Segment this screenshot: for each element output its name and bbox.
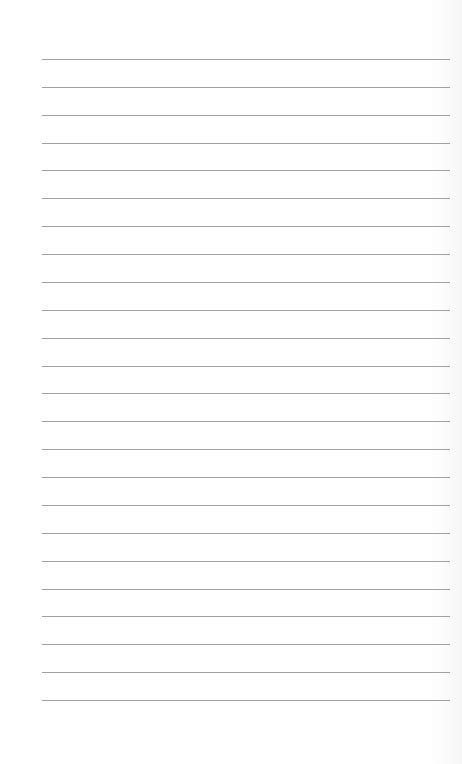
ruled-line bbox=[42, 310, 450, 311]
ruled-line bbox=[42, 366, 450, 367]
ruled-line bbox=[42, 282, 450, 283]
ruled-line bbox=[42, 87, 450, 88]
ruled-line bbox=[42, 59, 450, 60]
ruled-line bbox=[42, 449, 450, 450]
ruled-line bbox=[42, 477, 450, 478]
ruled-line bbox=[42, 393, 450, 394]
ruled-line bbox=[42, 143, 450, 144]
ruled-line bbox=[42, 505, 450, 506]
ruled-line bbox=[42, 421, 450, 422]
ruled-line bbox=[42, 616, 450, 617]
ruled-line bbox=[42, 115, 450, 116]
ruled-line bbox=[42, 198, 450, 199]
ruled-line bbox=[42, 226, 450, 227]
ruled-line bbox=[42, 170, 450, 171]
ruled-line bbox=[42, 700, 450, 701]
lined-paper-page bbox=[0, 0, 462, 764]
ruled-line bbox=[42, 561, 450, 562]
ruled-line bbox=[42, 644, 450, 645]
ruled-line bbox=[42, 589, 450, 590]
ruled-line bbox=[42, 254, 450, 255]
ruled-line bbox=[42, 338, 450, 339]
ruled-line bbox=[42, 533, 450, 534]
ruled-line bbox=[42, 672, 450, 673]
